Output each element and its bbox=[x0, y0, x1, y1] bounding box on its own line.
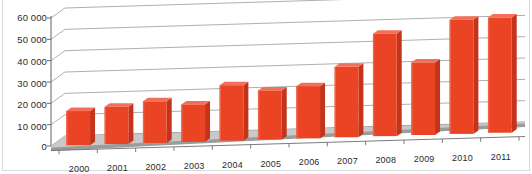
x-axis-tick-label: 2005 bbox=[251, 159, 291, 170]
bar bbox=[296, 83, 325, 139]
x-axis-tick-label: 2001 bbox=[98, 163, 138, 174]
x-axis-tick-label: 2009 bbox=[404, 154, 444, 165]
bar bbox=[450, 16, 479, 134]
bar bbox=[143, 98, 172, 143]
bar-chart-figure: 60 000 50 000 40 000 30 000 20 000 10 00… bbox=[0, 0, 532, 174]
bar bbox=[181, 101, 210, 142]
y-axis-tick-label: 20 000 bbox=[0, 100, 47, 110]
bar bbox=[335, 63, 364, 137]
y-axis-tick-label: 50 000 bbox=[0, 35, 47, 45]
x-axis-labels: 2000200120022003200420052006200720082009… bbox=[47, 150, 532, 174]
y-axis-labels: 60 000 50 000 40 000 30 000 20 000 10 00… bbox=[0, 0, 47, 174]
y-axis-tick-label: 0 bbox=[0, 142, 47, 152]
x-axis-tick-label: 2006 bbox=[289, 157, 329, 168]
x-axis-tick-label: 2004 bbox=[213, 160, 253, 171]
x-axis-tick-label: 2008 bbox=[366, 155, 406, 166]
plot-area bbox=[47, 0, 532, 174]
bar bbox=[105, 103, 134, 144]
bar bbox=[373, 30, 402, 136]
x-axis-tick-label: 2000 bbox=[59, 164, 99, 174]
x-axis-tick-label: 2007 bbox=[328, 156, 368, 167]
y-axis-tick-label: 40 000 bbox=[0, 57, 47, 67]
y-axis-tick-label: 30 000 bbox=[0, 79, 47, 89]
x-axis-tick-label: 2011 bbox=[481, 152, 521, 163]
y-axis-tick-label: 60 000 bbox=[0, 13, 47, 23]
bar bbox=[220, 82, 249, 141]
x-axis-tick-label: 2010 bbox=[443, 153, 483, 164]
plot-svg bbox=[47, 0, 532, 174]
bar bbox=[411, 59, 440, 135]
x-axis-tick-label: 2002 bbox=[136, 162, 176, 173]
bar bbox=[258, 87, 287, 140]
y-axis-tick-label: 10 000 bbox=[0, 122, 47, 132]
bar bbox=[488, 14, 517, 133]
bar bbox=[66, 108, 95, 146]
x-axis-tick-label: 2003 bbox=[174, 161, 214, 172]
